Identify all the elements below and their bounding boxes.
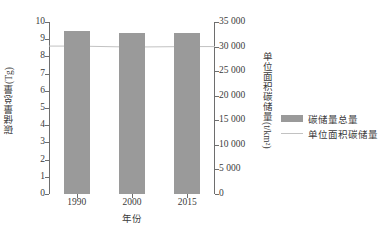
x-axis-tick-label-1990: 1990	[67, 197, 86, 207]
y-axis-left-tick	[45, 194, 49, 195]
y-axis-right-tick	[215, 71, 219, 72]
y-axis-right-tick	[215, 47, 219, 48]
legend-item-bar-label: 碳储量总量	[308, 112, 358, 126]
y-axis-right-title-text: 单位面积碳储量(t/km²)	[260, 52, 274, 149]
legend-item-bar: 碳储量总量	[281, 112, 378, 125]
bar-swatch-icon	[281, 115, 303, 122]
x-axis-tick-label-2015: 2015	[178, 197, 197, 207]
y-axis-right-tick	[215, 120, 219, 121]
y-axis-right-tick	[215, 145, 219, 146]
y-axis-left-tick	[45, 74, 49, 75]
y-axis-right-tick-label: 20 000	[219, 91, 245, 101]
y-axis-left-tick-labels: 012345678910	[18, 22, 45, 194]
y-axis-right-tick-label: 30 000	[219, 42, 245, 52]
y-axis-right-tick	[215, 22, 219, 23]
bar-2015	[174, 33, 200, 194]
x-axis-tick-labels: 199020002015	[49, 197, 215, 211]
line-swatch-icon	[281, 130, 303, 137]
y-axis-right-tick	[215, 96, 219, 97]
y-axis-left-tick	[45, 56, 49, 57]
legend-item-line-label: 单位面积碳储量	[308, 127, 378, 141]
x-axis-title: 年份	[49, 211, 215, 225]
y-axis-left-tick	[45, 108, 49, 109]
chart-legend: 碳储量总量 单位面积碳储量	[281, 112, 378, 142]
y-axis-left-tick	[45, 177, 49, 178]
y-axis-left-tick	[45, 125, 49, 126]
y-axis-left-tick	[45, 142, 49, 143]
y-axis-right-tick-label: 25 000	[219, 66, 245, 76]
y-axis-right-tick-labels: 05 00010 00015 00020 00025 00030 00035 0…	[219, 22, 259, 194]
y-axis-left-tick	[45, 91, 49, 92]
x-axis-tick-label-2000: 2000	[123, 197, 142, 207]
y-axis-right-tick-label: 10 000	[219, 140, 245, 150]
y-axis-right-tick	[215, 169, 219, 170]
y-axis-right-tick-label: 35 000	[219, 17, 245, 27]
y-axis-left-title: 碳储量总量(Tg)	[0, 0, 18, 200]
y-axis-left-tick	[45, 39, 49, 40]
legend-item-line: 单位面积碳储量	[281, 127, 378, 140]
y-axis-right-title: 单位面积碳储量(t/km²)	[258, 0, 276, 200]
bar-2000	[119, 33, 145, 194]
y-axis-right-tick-label: 0	[219, 189, 224, 199]
plot-area	[49, 22, 215, 194]
y-axis-left-tick	[45, 22, 49, 23]
y-axis-left-tick	[45, 160, 49, 161]
y-axis-right-tick-label: 15 000	[219, 116, 245, 126]
bar-1990	[64, 31, 90, 194]
carbon-storage-combo-chart: 碳储量总量(Tg) 单位面积碳储量(t/km²) 012345678910 05…	[0, 0, 390, 246]
y-axis-right-tick	[215, 194, 219, 195]
y-axis-left-tick-label: 10	[36, 17, 46, 27]
y-axis-left-title-text: 碳储量总量(Tg)	[2, 67, 16, 134]
y-axis-right-tick-label: 5 000	[219, 165, 240, 175]
